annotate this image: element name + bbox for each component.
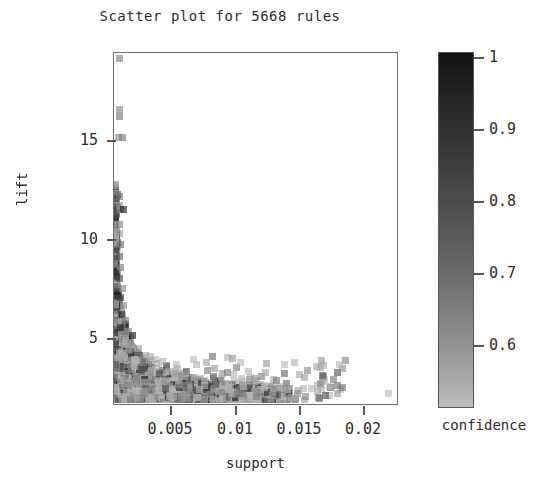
colorbar-tick-mark-06 [474,345,484,347]
x-axis-label: support [113,455,398,471]
colorbar-tick-mark-09 [474,129,484,131]
colorbar-tick-label-06: 0.6 [489,336,516,354]
colorbar-tick-label-07: 0.7 [489,264,516,282]
plot-area [113,52,398,405]
confidence-colorbar [438,52,474,408]
x-tick-label-0005: 0.005 [135,420,205,438]
x-tick-mark-0015 [299,406,301,415]
colorbar-tick-label-09: 0.9 [489,120,516,138]
y-tick-label-5: 5 [48,329,98,347]
y-tick-mark-5 [107,338,116,340]
y-tick-mark-15 [107,140,116,142]
x-tick-mark-001 [235,406,237,415]
colorbar-tick-label-1: 1 [489,48,498,66]
colorbar-title: confidence [424,417,544,433]
x-tick-mark-002 [363,406,365,415]
y-axis-label: lift [14,172,30,206]
page-title: Scatter plot for 5668 rules [0,8,440,24]
colorbar-tick-label-08: 0.8 [489,192,516,210]
scatter-plot-figure: Scatter plot for 5668 rules 15 10 5 lift… [0,0,560,489]
x-tick-label-0015: 0.015 [264,420,334,438]
colorbar-tick-mark-08 [474,201,484,203]
x-tick-mark-0005 [170,406,172,415]
y-tick-label-15: 15 [48,131,98,149]
y-tick-mark-10 [107,239,116,241]
colorbar-tick-mark-07 [474,273,484,275]
scatter-points-layer [114,53,396,403]
y-tick-label-10: 10 [48,230,98,248]
x-tick-label-001: 0.01 [203,420,267,438]
x-tick-label-002: 0.02 [331,420,395,438]
colorbar-tick-mark-1 [474,57,484,59]
